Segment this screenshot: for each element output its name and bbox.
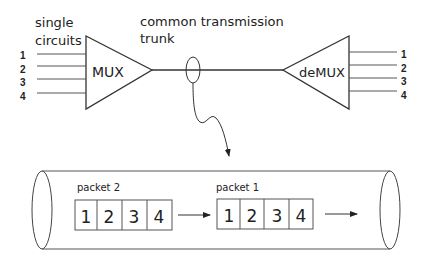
packet-2-label: packet 2 [77, 182, 120, 193]
demux-block: deMUX [283, 36, 349, 109]
input-label-4: 4 [20, 91, 26, 102]
packet-2-cell-2: 2 [104, 207, 115, 227]
input-label-3: 3 [20, 77, 26, 88]
packet-1-label: packet 1 [216, 182, 259, 193]
packet-1-cell-1: 1 [224, 206, 235, 226]
packet-2-cell-4: 4 [154, 207, 165, 227]
output-label-2: 2 [401, 63, 407, 74]
trunk-label-2: trunk [140, 31, 175, 46]
input-label-2: 2 [20, 64, 26, 75]
output-label-4: 4 [401, 90, 407, 101]
zoom-arrow-icon [193, 83, 229, 156]
multiplexing-diagram: single circuits common transmission trun… [0, 0, 428, 269]
mux-label: MUX [92, 64, 124, 80]
input-lines [37, 54, 86, 93]
input-label-1: 1 [20, 50, 26, 61]
trunk-label-1: common transmission [140, 14, 284, 29]
output-label-3: 3 [401, 76, 407, 87]
demux-label: deMUX [299, 65, 345, 80]
packet-1-cell-3: 3 [272, 206, 283, 226]
output-lines [349, 52, 397, 91]
packet-2-cell-3: 3 [129, 207, 140, 227]
packet-1-cell-4: 4 [296, 206, 307, 226]
output-label-1: 1 [401, 49, 407, 60]
single-circuits-label-2: circuits [35, 33, 82, 48]
packet-1-cell-2: 2 [247, 206, 258, 226]
single-circuits-label-1: single [35, 15, 74, 30]
packet-2-cell-1: 1 [81, 207, 92, 227]
mux-block: MUX [86, 36, 152, 109]
